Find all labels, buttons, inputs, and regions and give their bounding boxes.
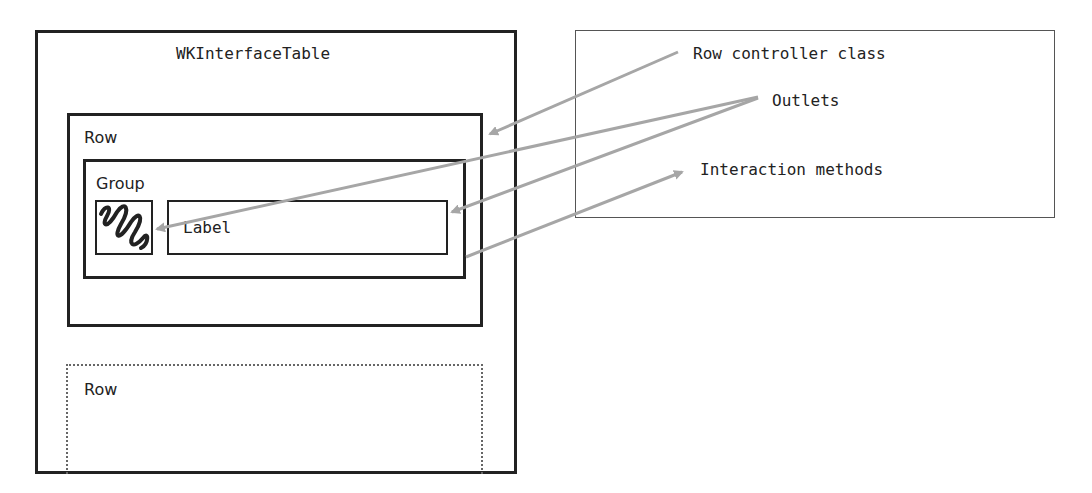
outlets-label: Outlets (772, 91, 839, 110)
interaction-methods-label: Interaction methods (700, 160, 883, 179)
row-label: Row (84, 128, 117, 147)
row-placeholder-label: Row (84, 380, 117, 399)
row-controller-class-label: Row controller class (693, 44, 886, 63)
squiggle-image-icon (97, 202, 151, 253)
row-placeholder-box (66, 364, 483, 474)
label-text: Label (183, 218, 231, 237)
group-label: Group (96, 174, 145, 193)
table-title: WKInterfaceTable (176, 44, 330, 63)
image-element (95, 200, 153, 255)
